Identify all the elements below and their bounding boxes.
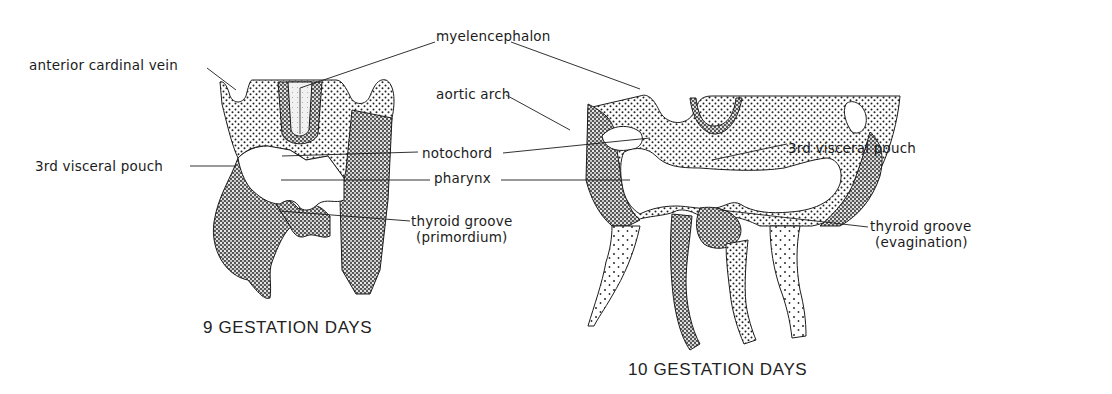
label-text: pharynx bbox=[434, 170, 491, 186]
section-day9 bbox=[213, 80, 394, 299]
caption-day9: 9 GESTATION DAYS bbox=[203, 318, 372, 338]
label-text: anterior cardinal vein bbox=[29, 57, 178, 73]
label-day10-thyroid-groove-evagination: thyroid groove(evagination) bbox=[870, 218, 971, 250]
caption-day10: 10 GESTATION DAYS bbox=[628, 360, 807, 380]
label-day9-thyroid-groove-primordium: thyroid groove(primordium) bbox=[411, 213, 512, 245]
label-text: thyroid groove bbox=[411, 213, 512, 229]
label-day10-3rd-visceral-pouch: 3rd visceral pouch bbox=[788, 140, 916, 156]
label-text: myelencephalon bbox=[436, 28, 551, 44]
section-day10 bbox=[586, 95, 900, 350]
label-text: aortic arch bbox=[436, 86, 511, 102]
label-text: 3rd visceral pouch bbox=[788, 140, 916, 156]
leader-line-myelencephalon bbox=[511, 42, 640, 89]
label-subtext: (evagination) bbox=[870, 234, 971, 250]
leader-line-aortic-arch bbox=[506, 95, 570, 130]
label-text: notochord bbox=[422, 145, 492, 161]
label-day9-myelencephalon: myelencephalon bbox=[436, 28, 551, 44]
label-day9-anterior-cardinal-vein: anterior cardinal vein bbox=[29, 57, 178, 73]
label-text: 3rd visceral pouch bbox=[35, 158, 163, 174]
label-day9-pharynx: pharynx bbox=[434, 170, 491, 186]
label-text: thyroid groove bbox=[870, 218, 971, 234]
label-day9-3rd-visceral-pouch: 3rd visceral pouch bbox=[35, 158, 163, 174]
label-day10-aortic-arch: aortic arch bbox=[436, 86, 511, 102]
leader-line-myelencephalon bbox=[300, 42, 435, 88]
label-subtext: (primordium) bbox=[411, 229, 512, 245]
label-day9-notochord: notochord bbox=[422, 145, 492, 161]
